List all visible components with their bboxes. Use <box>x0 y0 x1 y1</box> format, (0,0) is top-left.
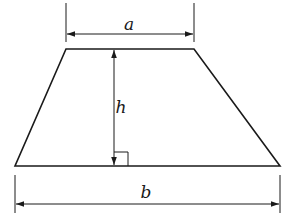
diagram-svg: a h b <box>0 0 291 220</box>
bottom-dimension: b <box>15 175 280 213</box>
top-dimension: a <box>66 3 194 42</box>
right-angle-marker <box>114 152 128 166</box>
label-b: b <box>141 182 152 202</box>
trapezoid-shape <box>15 49 280 166</box>
label-h: h <box>116 97 127 117</box>
height-dimension: h <box>114 50 128 166</box>
label-a: a <box>124 14 134 34</box>
trapezoid-diagram: a h b <box>0 0 291 220</box>
